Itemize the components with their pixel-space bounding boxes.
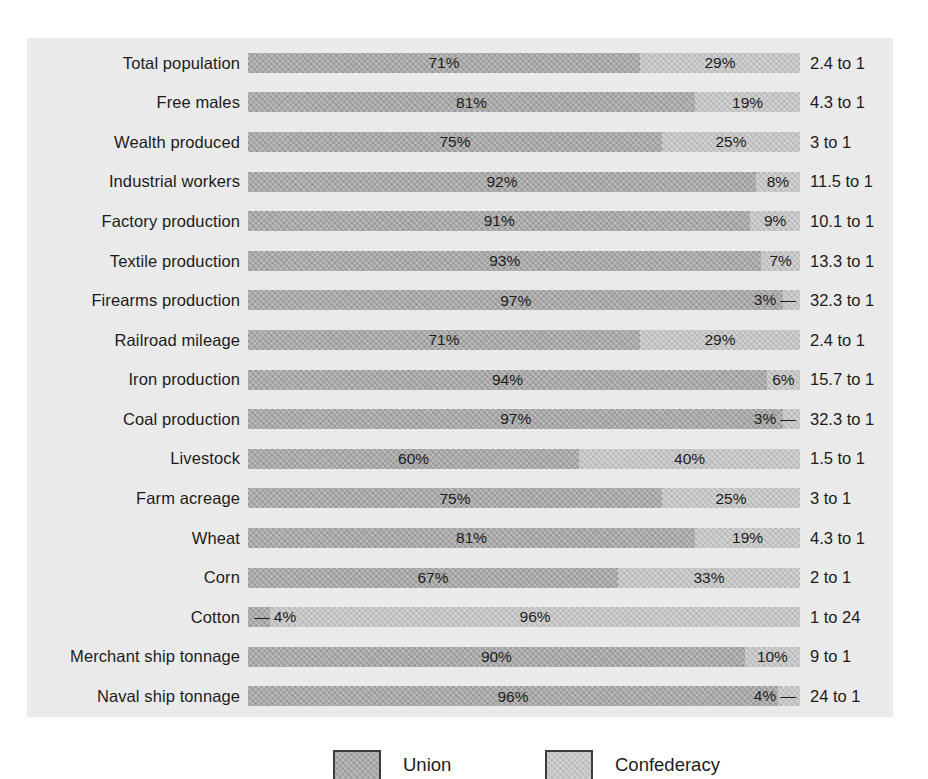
stacked-bar: 71%29% [248, 53, 800, 73]
chart-row: Textile production93%7%13.3 to 1 [27, 241, 893, 281]
chart-row: Total population71%29%2.4 to 1 [27, 43, 893, 83]
ratio-label: 10.1 to 1 [810, 213, 874, 230]
union-value-label: 81% [456, 530, 487, 546]
category-label: Naval ship tonnage [27, 688, 240, 705]
ratio-label: 32.3 to 1 [810, 411, 874, 428]
union-bar-segment: 94% [248, 370, 767, 390]
category-label: Cotton [27, 609, 240, 626]
union-bar-segment: 71% [248, 53, 640, 73]
ratio-label: 2 to 1 [810, 569, 851, 586]
confederacy-bar-segment: 29% [640, 53, 800, 73]
category-label: Textile production [27, 253, 240, 270]
confederacy-value-label: 6% [772, 372, 794, 388]
confederacy-legend-label: Confederacy [615, 756, 720, 775]
confederacy-bar-segment: 7% [761, 251, 800, 271]
union-bar-segment: 71% [248, 330, 640, 350]
confederacy-bar-segment: 19% [695, 92, 800, 112]
union-bar-segment: 97% [248, 290, 783, 310]
chart-row: Wealth produced75%25%3 to 1 [27, 122, 893, 162]
confederacy-value-label: 10% [757, 649, 788, 665]
confederacy-bar-segment: 96% [270, 607, 800, 627]
stacked-bar: 4% —96% [248, 686, 800, 706]
union-bar-segment: 92% [248, 172, 756, 192]
confederacy-value-label: 19% [732, 95, 763, 111]
union-value-label: 92% [486, 174, 517, 190]
stacked-bar: 60%40% [248, 449, 800, 469]
union-bar-segment: 67% [248, 568, 618, 588]
chart-row: Free males81%19%4.3 to 1 [27, 83, 893, 123]
stacked-bar: 81%19% [248, 92, 800, 112]
stacked-bar: 3% —97% [248, 409, 800, 429]
stacked-bar: 93%7% [248, 251, 800, 271]
stacked-bar: 71%29% [248, 330, 800, 350]
confederacy-bar-segment: 33% [618, 568, 800, 588]
confederacy-value-label: 25% [715, 491, 746, 507]
confederacy-value-label: 33% [693, 570, 724, 586]
confederacy-value-label: 8% [767, 174, 789, 190]
confederacy-bar-segment: 25% [662, 488, 800, 508]
ratio-label: 4.3 to 1 [810, 94, 865, 111]
confederacy-value-label: 40% [674, 451, 705, 467]
ratio-label: 3 to 1 [810, 490, 851, 507]
chart-row: Livestock60%40%1.5 to 1 [27, 439, 893, 479]
chart-row: Cotton— 4%96%1 to 24 [27, 597, 893, 637]
chart-row: Firearms production3% —97%32.3 to 1 [27, 281, 893, 321]
category-label: Wealth produced [27, 134, 240, 151]
chart-figure: Total population71%29%2.4 to 1Free males… [0, 0, 928, 779]
stacked-bar: 91%9% [248, 211, 800, 231]
confederacy-value-label: 96% [520, 609, 551, 625]
category-label: Farm acreage [27, 490, 240, 507]
category-label: Industrial workers [27, 173, 240, 190]
confederacy-bar-segment: 29% [640, 330, 800, 350]
chart-legend: Union Confederacy [0, 750, 928, 779]
chart-row: Industrial workers92%8%11.5 to 1 [27, 162, 893, 202]
confederacy-value-label: 29% [704, 55, 735, 71]
category-label: Factory production [27, 213, 240, 230]
chart-row: Naval ship tonnage4% —96%24 to 1 [27, 677, 893, 717]
category-label: Coal production [27, 411, 240, 428]
confederacy-value-label: 3% — [754, 293, 796, 309]
confederacy-value-label: 19% [732, 530, 763, 546]
union-value-label: 97% [500, 293, 531, 309]
stacked-bar: 75%25% [248, 132, 800, 152]
union-value-label: 91% [484, 213, 515, 229]
chart-row: Corn67%33%2 to 1 [27, 558, 893, 598]
chart-panel: Total population71%29%2.4 to 1Free males… [27, 38, 893, 717]
ratio-label: 9 to 1 [810, 648, 851, 665]
ratio-label: 4.3 to 1 [810, 530, 865, 547]
category-label: Corn [27, 569, 240, 586]
stacked-bar: 67%33% [248, 568, 800, 588]
chart-row: Iron production94%6%15.7 to 1 [27, 360, 893, 400]
confederacy-value-label: 25% [715, 134, 746, 150]
confederacy-value-label: 4% — [754, 689, 796, 705]
category-label: Wheat [27, 530, 240, 547]
chart-row: Coal production3% —97%32.3 to 1 [27, 399, 893, 439]
union-bar-segment: 96% [248, 686, 778, 706]
legend-item-union: Union [333, 750, 451, 779]
union-value-label: — 4% [254, 609, 296, 625]
chart-rows: Total population71%29%2.4 to 1Free males… [27, 43, 893, 716]
ratio-label: 3 to 1 [810, 134, 851, 151]
union-bar-segment: 90% [248, 647, 745, 667]
union-bar-segment: 93% [248, 251, 761, 271]
category-label: Livestock [27, 450, 240, 467]
union-value-label: 71% [428, 332, 459, 348]
category-label: Firearms production [27, 292, 240, 309]
union-value-label: 90% [481, 649, 512, 665]
chart-row: Merchant ship tonnage90%10%9 to 1 [27, 637, 893, 677]
ratio-label: 1 to 24 [810, 609, 860, 626]
confederacy-bar-segment: 9% [750, 211, 800, 231]
confederacy-value-label: 29% [704, 332, 735, 348]
ratio-label: 1.5 to 1 [810, 450, 865, 467]
category-label: Free males [27, 94, 240, 111]
stacked-bar: — 4%96% [248, 607, 800, 627]
confederacy-bar-segment: 19% [695, 528, 800, 548]
union-bar-segment: 91% [248, 211, 750, 231]
category-label: Merchant ship tonnage [27, 648, 240, 665]
ratio-label: 11.5 to 1 [810, 173, 873, 190]
stacked-bar: 90%10% [248, 647, 800, 667]
union-value-label: 81% [456, 95, 487, 111]
union-bar-segment: 81% [248, 528, 695, 548]
stacked-bar: 94%6% [248, 370, 800, 390]
stacked-bar: 75%25% [248, 488, 800, 508]
